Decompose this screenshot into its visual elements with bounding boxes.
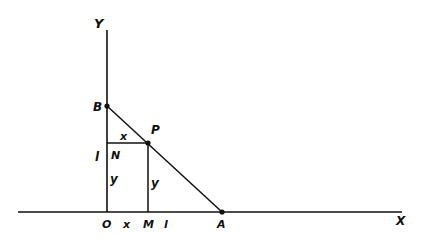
segment-np-label: x xyxy=(119,130,128,143)
segment-mp-label: y xyxy=(151,176,160,190)
point-p-marker xyxy=(145,140,150,145)
point-p-label: P xyxy=(151,123,160,137)
point-a-label: A xyxy=(216,218,226,231)
line-ba xyxy=(107,106,222,212)
segment-om-label: x xyxy=(122,218,131,231)
y-axis-label: Y xyxy=(94,16,105,31)
segment-bn-label: l xyxy=(95,150,100,164)
point-b-marker xyxy=(104,103,109,108)
segment-on-label: y xyxy=(110,172,119,186)
point-a-marker xyxy=(219,209,224,214)
origin-label: O xyxy=(102,218,111,231)
segment-ma-label: l xyxy=(164,218,168,231)
point-n-label: N xyxy=(111,149,120,162)
x-axis-label: X xyxy=(395,214,406,228)
geometry-diagram: Y X B P N O M A x x l l y y xyxy=(0,0,426,248)
point-m-label: M xyxy=(143,218,154,231)
point-b-label: B xyxy=(93,100,102,114)
